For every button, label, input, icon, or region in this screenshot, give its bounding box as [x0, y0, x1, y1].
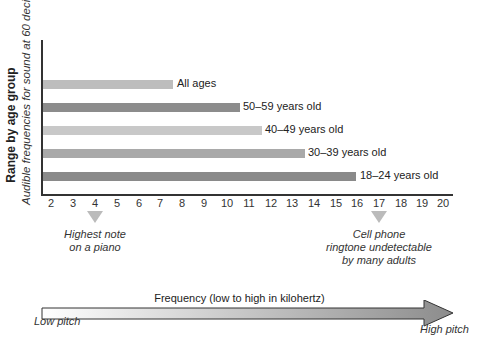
x-tick: 3: [63, 197, 83, 209]
x-tick: 12: [261, 197, 281, 209]
bar-50-59: [43, 103, 240, 112]
bar-30-39: [43, 149, 305, 158]
note-line: on a piano: [35, 241, 155, 254]
x-tick: 11: [239, 197, 259, 209]
bar-label: 40–49 years old: [265, 123, 343, 135]
note-line: ringtone undetectable: [314, 241, 444, 254]
bar-18-24: [43, 172, 356, 181]
note-line: Cell phone: [314, 228, 444, 241]
x-tick: 6: [129, 197, 149, 209]
x-tick: 15: [326, 197, 346, 209]
x-tick: 13: [282, 197, 302, 209]
bar-label: 50–59 years old: [243, 100, 321, 112]
bar-label: All ages: [177, 77, 216, 89]
note-line: by many adults: [314, 254, 444, 267]
phone-marker-icon: [371, 211, 387, 223]
high-pitch-label: High pitch: [420, 323, 469, 335]
piano-marker-icon: [87, 211, 103, 223]
phone-note: Cell phone ringtone undetectable by many…: [314, 228, 444, 267]
piano-note: Highest note on a piano: [35, 228, 155, 254]
x-tick: 4: [85, 197, 105, 209]
x-tick: 17: [369, 197, 389, 209]
x-tick: 10: [217, 197, 237, 209]
x-tick: 9: [194, 197, 214, 209]
x-tick: 18: [391, 197, 411, 209]
x-tick: 19: [412, 197, 432, 209]
bar-label: 18–24 years old: [360, 169, 438, 181]
x-tick: 5: [107, 197, 127, 209]
x-tick: 2: [41, 197, 61, 209]
low-pitch-label: Low pitch: [34, 315, 80, 327]
x-tick: 7: [150, 197, 170, 209]
note-line: Highest note: [35, 228, 155, 241]
x-tick: 16: [347, 197, 367, 209]
bar-40-49: [43, 126, 262, 135]
x-tick: 14: [304, 197, 324, 209]
bar-label: 30–39 years old: [308, 146, 386, 158]
y-axis-title: Range by age group: [4, 50, 18, 200]
bar-all-ages: [43, 80, 173, 89]
y-axis-subtitle: Audible frequencies for sound at 60 deci…: [20, 0, 32, 205]
x-tick: 8: [172, 197, 192, 209]
x-axis-line: [41, 194, 453, 196]
x-tick: 20: [433, 197, 453, 209]
